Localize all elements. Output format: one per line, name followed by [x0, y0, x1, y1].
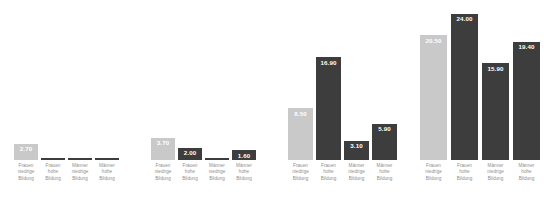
x-axis-category-label: FrauenhoheBildung	[176, 163, 204, 182]
bar-value-label: 8.50	[294, 111, 306, 117]
category-label-line: Bildung	[149, 176, 177, 182]
bar-value-label: 1.60	[238, 153, 250, 159]
bar-slot: 8.50	[288, 0, 313, 160]
bar-slot	[205, 0, 229, 160]
category-label-line: Bildung	[66, 176, 94, 182]
category-label-line: Bildung	[342, 176, 371, 182]
bar-slot: 5.90	[372, 0, 397, 160]
bar-chart: 2.70FrauenniedrigeBildungFrauenhoheBildu…	[0, 0, 544, 199]
x-axis-category-label: FrauenhoheBildung	[314, 163, 343, 182]
bar-value-label: 20.50	[426, 38, 442, 44]
bar-value-label: 16.90	[321, 60, 337, 66]
bar[interactable]	[316, 57, 341, 160]
bar-slot	[95, 0, 119, 160]
bar-slot: 19.40	[513, 0, 540, 160]
x-axis-category-label: MännerhoheBildung	[370, 163, 399, 182]
category-label-line: Bildung	[511, 176, 542, 182]
bar-value-label: 3.10	[350, 143, 362, 149]
x-axis-category-label: MännerhoheBildung	[93, 163, 121, 182]
x-axis-category-label: MännerniedrigeBildung	[480, 163, 511, 182]
x-axis-category-label: FrauenniedrigeBildung	[149, 163, 177, 182]
x-axis-category-label: FrauenniedrigeBildung	[418, 163, 449, 182]
bar-slot: 20.50	[420, 0, 447, 160]
bar-slot: 2.70	[14, 0, 38, 160]
category-label-line: Bildung	[449, 176, 480, 182]
category-label-line: Bildung	[93, 176, 121, 182]
x-axis-category-label: FrauenniedrigeBildung	[286, 163, 315, 182]
x-axis-category-label: MännerniedrigeBildung	[342, 163, 371, 182]
bar-slot: 3.10	[344, 0, 369, 160]
bar-slot: 3.70	[151, 0, 175, 160]
category-label-line: Bildung	[230, 176, 258, 182]
bar-slot: 24.00	[451, 0, 478, 160]
category-label-line: Bildung	[39, 176, 67, 182]
category-label-line: Bildung	[12, 176, 40, 182]
x-axis-category-label: MännerhoheBildung	[230, 163, 258, 182]
x-axis-category-label: FrauenhoheBildung	[449, 163, 480, 182]
bar[interactable]	[420, 35, 447, 160]
bar[interactable]	[482, 63, 509, 160]
category-label-line: Bildung	[418, 176, 449, 182]
bar[interactable]	[205, 158, 229, 160]
category-label-line: Bildung	[203, 176, 231, 182]
bar-value-label: 5.90	[378, 126, 390, 132]
bar-slot: 2.00	[178, 0, 202, 160]
bar-value-label: 3.70	[157, 140, 169, 146]
bar[interactable]	[451, 14, 478, 160]
category-label-line: Bildung	[286, 176, 315, 182]
x-axis-category-label: MännerhoheBildung	[511, 163, 542, 182]
bar-slot: 1.60	[232, 0, 256, 160]
category-label-line: Bildung	[176, 176, 204, 182]
bar-value-label: 24.00	[457, 16, 473, 22]
bar-value-label: 2.70	[20, 146, 32, 152]
category-label-line: Bildung	[480, 176, 511, 182]
bar[interactable]	[41, 158, 65, 160]
x-axis-category-label: MännerniedrigeBildung	[66, 163, 94, 182]
bar[interactable]	[68, 158, 92, 160]
category-label-line: Bildung	[370, 176, 399, 182]
bar[interactable]	[95, 158, 119, 160]
category-label-line: Bildung	[314, 176, 343, 182]
bar-slot	[41, 0, 65, 160]
x-axis-category-label: FrauenniedrigeBildung	[12, 163, 40, 182]
bar-slot	[68, 0, 92, 160]
x-axis-category-label: FrauenhoheBildung	[39, 163, 67, 182]
x-axis-category-label: MännerniedrigeBildung	[203, 163, 231, 182]
bar-value-label: 15.90	[488, 66, 504, 72]
bar-value-label: 19.40	[519, 44, 535, 50]
bar-value-label: 2.00	[184, 150, 196, 156]
bar-slot: 16.90	[316, 0, 341, 160]
bar[interactable]	[513, 42, 540, 160]
bar-slot: 15.90	[482, 0, 509, 160]
